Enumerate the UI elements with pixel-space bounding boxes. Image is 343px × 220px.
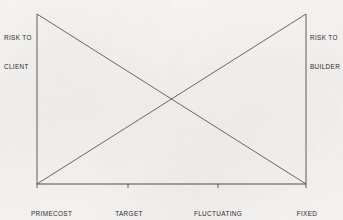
risk-to-client-label-line2: CLIENT (4, 62, 32, 72)
x-tick-label-primecost-and-fee: PRIMECOST AND FEE (31, 190, 72, 220)
risk-to-client-label-line1: RISK TO (4, 33, 32, 43)
x-tick-label-3-line1: FIXED (288, 209, 326, 219)
risk-to-builder-label: RISK TO BUILDER (310, 13, 340, 91)
risk-allocation-diagram: RISK TO CLIENT RISK TO BUILDER PRIMECOST… (0, 0, 343, 220)
risk-to-builder-label-line2: BUILDER (310, 62, 340, 72)
risk-to-builder-label-line1: RISK TO (310, 33, 340, 43)
x-tick-label-fixed-price: FIXED PRICE (288, 190, 326, 220)
x-tick-label-0-line1: PRIMECOST (31, 209, 72, 219)
risk-to-client-label: RISK TO CLIENT (4, 13, 32, 91)
x-tick-label-target-cost: TARGET COST (110, 190, 148, 220)
x-tick-label-1-line1: TARGET (110, 209, 148, 219)
chart-canvas (0, 0, 343, 220)
x-tick-label-2-line1: FLUCTUATING (190, 209, 246, 219)
x-tick-label-fluctuating-price: FLUCTUATING PRICE (190, 190, 246, 220)
